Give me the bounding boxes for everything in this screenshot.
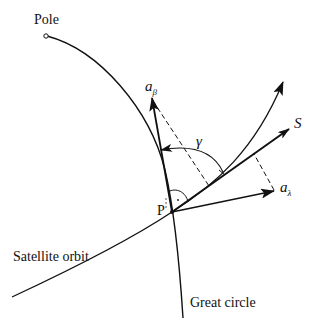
a-lambda-projection-dashed	[254, 154, 274, 190]
point-p-label: P	[157, 203, 165, 218]
satellite-orbit-label: Satellite orbit	[13, 249, 89, 264]
gamma-angle-arc	[161, 148, 223, 172]
gamma-label: γ	[196, 133, 203, 149]
great-circle-curve	[47, 36, 183, 318]
diagram-canvas: Pole P aβ aλ S γ Satellite orbit Great c…	[0, 0, 313, 334]
s-vector-label: S	[294, 115, 302, 131]
right-angle-dot	[177, 199, 179, 201]
a-beta-label: aβ	[145, 78, 158, 97]
pole-label: Pole	[34, 12, 59, 27]
great-circle-label: Great circle	[190, 295, 256, 310]
point-p-marker	[170, 210, 174, 214]
a-lambda-label: aλ	[280, 179, 292, 198]
pole-marker	[44, 34, 48, 38]
